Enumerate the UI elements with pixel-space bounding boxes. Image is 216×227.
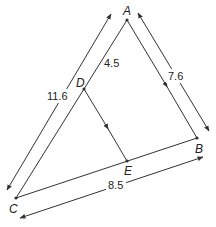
point-e	[125, 159, 128, 162]
triangle-diagram: A B C D E 11.6 4.5 7.6 8.5	[0, 0, 216, 227]
point-b	[195, 136, 198, 139]
point-label-b: B	[195, 142, 203, 156]
point-a	[125, 18, 128, 21]
side-ac	[16, 20, 127, 198]
measurement-ab: 7.6	[168, 70, 183, 82]
point-label-a: A	[122, 4, 131, 18]
measurement-ac: 11.6	[47, 90, 68, 102]
side-ab	[127, 20, 197, 138]
segment-de	[84, 89, 127, 161]
measurement-ad: 4.5	[104, 57, 119, 69]
measurement-cb: 8.5	[108, 179, 123, 191]
point-label-c: C	[9, 202, 18, 216]
point-label-e: E	[124, 164, 133, 178]
point-label-d: D	[76, 76, 85, 90]
point-c	[14, 196, 17, 199]
